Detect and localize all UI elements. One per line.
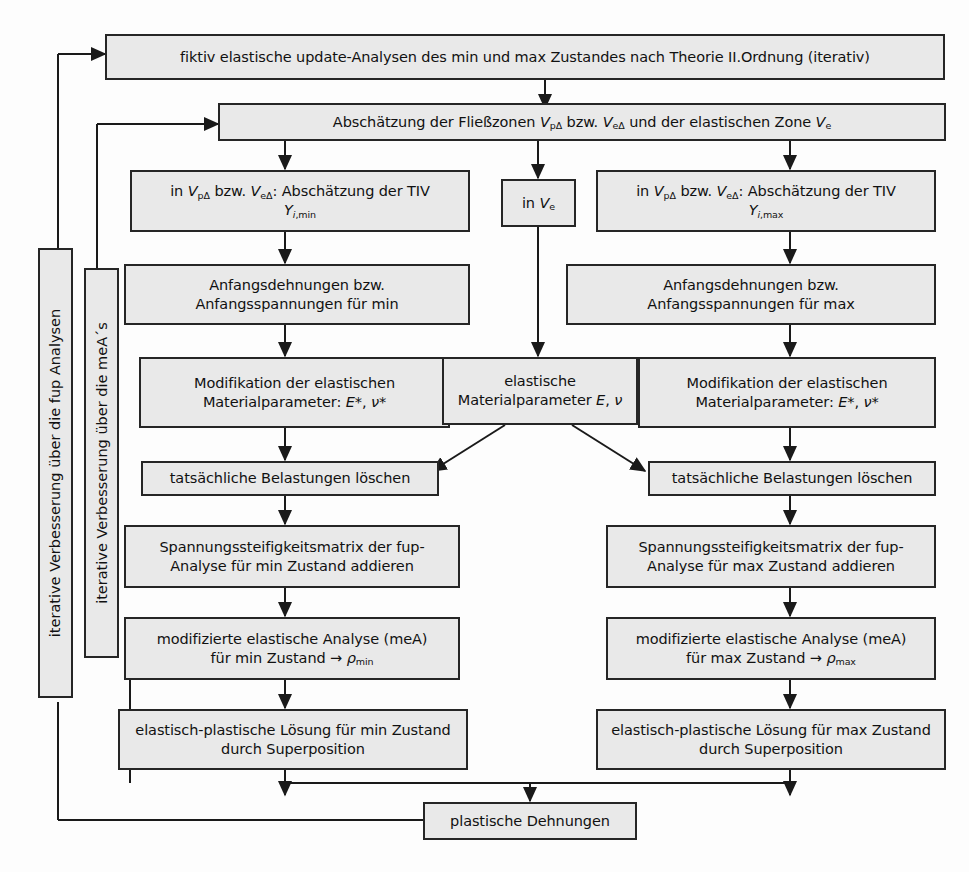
node-label: Spannungssteifigkeitsmatrix der fup-Anal… bbox=[132, 538, 452, 576]
edge-elastische-to-loeschenmin bbox=[432, 425, 505, 471]
node-label: Modifikation der elastischenMaterialpara… bbox=[646, 374, 928, 412]
node-abschaetzung-fliesszonen[interactable]: Abschätzung der Fließzonen VpΔ bzw. VeΔ … bbox=[218, 103, 946, 141]
node-label: Anfangsdehnungen bzw.Anfangsspannungen f… bbox=[132, 276, 462, 314]
node-mea-min[interactable]: modifizierte elastische Analyse (meA)für… bbox=[124, 617, 460, 680]
node-label: plastische Dehnungen bbox=[431, 812, 629, 831]
node-modifikation-min[interactable]: Modifikation der elastischenMaterialpara… bbox=[139, 357, 450, 428]
vertical-label-text: iterative Verbesserung über die meA´s bbox=[94, 322, 110, 604]
node-anfangsdehnungen-max[interactable]: Anfangsdehnungen bzw.Anfangsspannungen f… bbox=[566, 264, 936, 325]
node-fiktiv-elastische-update-analysen[interactable]: fiktiv elastische update-Analysen des mi… bbox=[105, 34, 945, 80]
node-label: tatsächliche Belastungen löschen bbox=[149, 469, 431, 488]
node-anfangsdehnungen-min[interactable]: Anfangsdehnungen bzw.Anfangsspannungen f… bbox=[124, 264, 470, 325]
node-loesung-max[interactable]: elastisch-plastische Lösung für max Zust… bbox=[596, 709, 946, 770]
node-label: Anfangsdehnungen bzw.Anfangsspannungen f… bbox=[574, 276, 928, 314]
node-belastungen-loeschen-max[interactable]: tatsächliche Belastungen löschen bbox=[648, 461, 936, 496]
node-label: Abschätzung der Fließzonen VpΔ bzw. VeΔ … bbox=[226, 113, 938, 132]
node-label: tatsächliche Belastungen löschen bbox=[656, 469, 928, 488]
node-tiv-max[interactable]: in VpΔ bzw. VeΔ: Abschätzung der TIVYi,m… bbox=[596, 170, 936, 232]
node-elastische-materialparameter[interactable]: elastischeMaterialparameter E, ν bbox=[442, 357, 638, 425]
node-in-ve[interactable]: in Ve bbox=[501, 179, 576, 227]
edge-elastische-to-loeschenmax bbox=[572, 425, 645, 471]
node-loesung-min[interactable]: elastisch-plastische Lösung für min Zust… bbox=[118, 709, 468, 770]
node-label: elastisch-plastische Lösung für min Zust… bbox=[126, 721, 460, 759]
node-label: elastischeMaterialparameter E, ν bbox=[450, 372, 630, 410]
node-spannungssteifigkeitsmatrix-min[interactable]: Spannungssteifigkeitsmatrix der fup-Anal… bbox=[124, 525, 460, 588]
label-iterative-verbesserung-fup: iterative Verbesserung über die fup Anal… bbox=[38, 248, 73, 698]
node-label: in Ve bbox=[509, 194, 568, 213]
node-label: in VpΔ bzw. VeΔ: Abschätzung der TIVYi,m… bbox=[604, 182, 928, 220]
node-label: modifizierte elastische Analyse (meA)für… bbox=[132, 630, 452, 668]
node-tiv-min[interactable]: in VpΔ bzw. VeΔ: Abschätzung der TIVYi,m… bbox=[130, 170, 470, 232]
node-plastische-dehnungen[interactable]: plastische Dehnungen bbox=[423, 802, 637, 840]
label-iterative-verbesserung-mea: iterative Verbesserung über die meA´s bbox=[84, 268, 119, 658]
vertical-label-text: iterative Verbesserung über die fup Anal… bbox=[48, 309, 64, 637]
flowchart-canvas: fiktiv elastische update-Analysen des mi… bbox=[0, 0, 969, 872]
node-belastungen-loeschen-min[interactable]: tatsächliche Belastungen löschen bbox=[141, 461, 439, 496]
node-label: elastisch-plastische Lösung für max Zust… bbox=[604, 721, 938, 759]
node-label: fiktiv elastische update-Analysen des mi… bbox=[113, 48, 937, 67]
node-modifikation-max[interactable]: Modifikation der elastischenMaterialpara… bbox=[638, 357, 936, 428]
node-spannungssteifigkeitsmatrix-max[interactable]: Spannungssteifigkeitsmatrix der fup-Anal… bbox=[606, 525, 936, 588]
node-label: modifizierte elastische Analyse (meA)für… bbox=[614, 630, 928, 668]
node-label: Spannungssteifigkeitsmatrix der fup-Anal… bbox=[614, 538, 928, 576]
node-label: Modifikation der elastischenMaterialpara… bbox=[147, 374, 442, 412]
node-label: in VpΔ bzw. VeΔ: Abschätzung der TIVYi,m… bbox=[138, 182, 462, 220]
node-mea-max[interactable]: modifizierte elastische Analyse (meA)für… bbox=[606, 617, 936, 680]
